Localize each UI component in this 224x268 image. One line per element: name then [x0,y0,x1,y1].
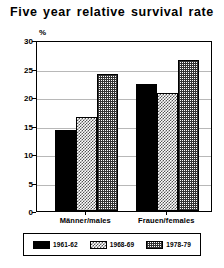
bar-1968-69-females [157,93,178,211]
x-axis-tick-mark [85,212,86,215]
bar-1968-69-males [76,117,97,211]
plot-inner [37,42,211,211]
y-axis-tick-label: 25 [3,65,33,74]
y-axis-unit-label: % [39,28,46,37]
plot-area [36,41,212,212]
x-axis-tick-mark [166,212,167,215]
legend-item: 1978-79 [146,241,191,249]
legend-swatch-1968-69 [90,241,107,249]
bar-1961-62-males [55,130,76,212]
y-axis-tick-mark [32,212,36,213]
legend-item: 1968-69 [90,241,135,249]
chart-figure: Five year relative survival rate % 05101… [0,0,224,268]
legend-swatch-1978-79 [146,241,163,249]
y-axis-tick-label: 30 [3,37,33,46]
x-axis-category-label: Frauen/females [116,216,216,225]
legend-label-1968-69: 1968-69 [110,241,135,248]
bar-1961-62-females [136,84,157,211]
legend-swatch-1961-62 [33,241,50,249]
legend-label-1978-79: 1978-79 [166,241,191,248]
bar-1978-79-males [97,74,118,211]
bar-1978-79-females [178,60,199,211]
y-axis-tick-labels: 051015202530 [0,0,33,268]
y-axis-tick-label: 15 [3,122,33,131]
y-axis-tick-label: 20 [3,94,33,103]
legend-label-1961-62: 1961-62 [53,241,78,248]
legend-item: 1961-62 [33,241,78,249]
chart-title: Five year relative survival rate [0,5,224,19]
chart-legend: 1961-62 1968-69 1978-79 [23,233,201,256]
y-axis-tick-label: 10 [3,151,33,160]
y-axis-tick-label: 5 [3,179,33,188]
y-axis-tick-label: 0 [3,208,33,217]
